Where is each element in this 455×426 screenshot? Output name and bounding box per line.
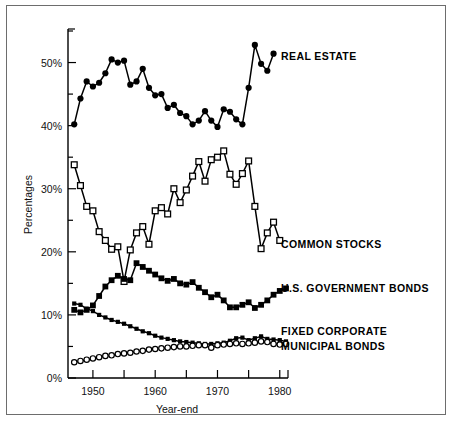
series-2	[71, 260, 289, 315]
data-point-marker	[140, 264, 146, 270]
data-point-marker	[240, 302, 246, 308]
data-point-marker	[121, 276, 127, 282]
data-point-marker	[240, 341, 245, 346]
data-point-marker	[116, 320, 120, 324]
data-point-marker	[72, 301, 76, 305]
data-point-marker	[158, 91, 164, 97]
data-point-marker	[202, 289, 208, 295]
data-point-marker	[122, 322, 126, 326]
data-point-marker	[270, 51, 276, 57]
data-point-marker	[153, 334, 157, 338]
data-point-marker	[209, 345, 214, 350]
data-point-marker	[196, 342, 201, 347]
data-point-marker	[171, 344, 176, 349]
data-point-marker	[171, 102, 177, 108]
data-point-marker	[239, 121, 245, 127]
data-point-marker	[202, 178, 208, 184]
data-point-marker	[102, 284, 108, 290]
data-point-marker	[233, 116, 239, 122]
data-point-marker	[96, 354, 101, 359]
data-point-marker	[146, 241, 152, 247]
data-point-marker	[171, 186, 177, 192]
data-point-marker	[264, 230, 270, 236]
data-point-marker	[97, 313, 101, 317]
data-point-marker	[202, 342, 207, 347]
data-point-marker	[246, 85, 252, 91]
data-point-marker	[146, 85, 152, 91]
data-point-marker	[115, 351, 120, 356]
data-point-marker	[227, 341, 232, 346]
data-point-marker	[264, 68, 270, 74]
data-point-marker	[103, 353, 108, 358]
data-point-marker	[227, 171, 233, 177]
data-point-marker	[90, 303, 96, 309]
data-point-marker	[165, 211, 171, 217]
data-point-marker	[252, 340, 257, 345]
data-point-marker	[84, 78, 90, 84]
data-point-marker	[265, 339, 270, 344]
data-point-marker	[240, 336, 244, 340]
data-point-marker	[153, 346, 158, 351]
data-point-marker	[115, 273, 121, 279]
data-point-marker	[246, 341, 251, 346]
data-point-marker	[183, 282, 189, 288]
data-point-marker	[109, 277, 115, 283]
data-point-marker	[121, 58, 127, 64]
data-point-marker	[96, 229, 102, 235]
data-point-marker	[140, 224, 146, 230]
data-point-marker	[96, 80, 102, 86]
data-point-marker	[134, 260, 140, 266]
y-tick-label: 20%	[41, 246, 62, 258]
data-point-marker	[183, 187, 189, 193]
y-tick-label: 10%	[41, 309, 62, 321]
data-point-marker	[258, 246, 264, 252]
data-point-marker	[152, 272, 158, 278]
series-0	[71, 42, 277, 130]
data-point-marker	[147, 331, 151, 335]
data-point-marker	[110, 318, 114, 322]
data-point-marker	[103, 315, 107, 319]
data-point-marker	[246, 158, 252, 164]
data-point-marker	[221, 106, 227, 112]
data-point-marker	[271, 219, 277, 225]
data-point-marker	[233, 304, 239, 310]
data-point-marker	[152, 208, 158, 214]
data-point-marker	[271, 341, 276, 346]
series-label: MUNICIPAL BONDS	[281, 340, 385, 352]
data-point-marker	[184, 344, 189, 349]
series-label: REAL ESTATE	[281, 50, 357, 62]
data-point-marker	[190, 279, 196, 285]
data-point-marker	[190, 173, 196, 179]
data-point-marker	[78, 303, 82, 307]
series-label: U.S. GOVERNMENT BONDS	[281, 282, 429, 294]
data-point-marker	[85, 307, 89, 311]
data-point-marker	[196, 117, 202, 123]
data-point-marker	[78, 358, 83, 363]
data-point-marker	[246, 299, 252, 305]
data-point-marker	[128, 350, 133, 355]
data-point-marker	[77, 95, 83, 101]
data-point-marker	[190, 343, 195, 348]
data-point-marker	[208, 294, 214, 300]
data-point-marker	[233, 341, 238, 346]
series-label: COMMON STOCKS	[281, 238, 382, 250]
series-line	[74, 45, 273, 127]
data-point-marker	[90, 83, 96, 89]
data-point-marker	[258, 302, 264, 308]
data-point-marker	[127, 277, 133, 283]
data-point-marker	[171, 276, 177, 282]
y-tick-label: 0%	[47, 372, 62, 384]
data-point-marker	[252, 203, 258, 209]
data-point-marker	[159, 275, 165, 281]
data-point-marker	[259, 334, 263, 338]
data-point-marker	[258, 339, 263, 344]
x-tick-label: 1950	[81, 385, 105, 397]
data-point-marker	[91, 309, 95, 313]
data-point-marker	[102, 70, 108, 76]
y-tick-label: 30%	[41, 183, 62, 195]
data-point-marker	[115, 244, 121, 250]
data-point-marker	[152, 92, 158, 98]
series-1	[71, 148, 282, 284]
data-point-marker	[208, 157, 214, 163]
line-chart: 0%10%20%30%40%50%1950196019701980 REAL E…	[0, 0, 455, 426]
